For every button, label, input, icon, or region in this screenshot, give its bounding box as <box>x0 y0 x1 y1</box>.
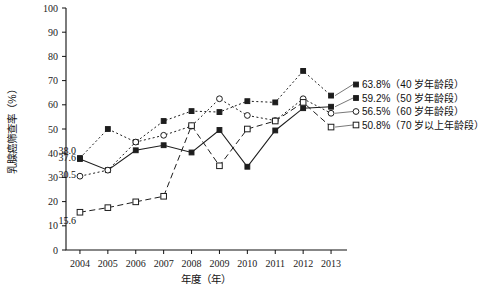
legend-label-3: 50.8%（70 岁以上年龄段） <box>362 119 484 131</box>
series-0-marker <box>301 69 306 74</box>
series-3-marker <box>133 199 139 205</box>
legend-marker-3 <box>353 122 359 128</box>
x-tick-label: 2010 <box>237 258 257 269</box>
series-1-marker <box>78 157 83 162</box>
x-axis-title: 年度（年） <box>181 273 231 285</box>
series-2-marker <box>244 113 250 119</box>
point-label-3: 15.6 <box>58 215 76 226</box>
legend-leader-1 <box>335 98 353 107</box>
y-tick-label: 60 <box>48 99 58 110</box>
series-1-marker <box>329 104 334 109</box>
y-tick-label: 20 <box>48 196 58 207</box>
chart-svg: 0102030405060708090100200420052006200720… <box>0 0 487 293</box>
series-1-marker <box>189 150 194 155</box>
legend-label-0: 63.8%（40 岁年龄段） <box>362 78 464 90</box>
series-3-marker <box>328 124 334 130</box>
x-tick-label: 2011 <box>265 258 285 269</box>
series-1-marker <box>273 128 278 133</box>
x-tick-label: 2008 <box>182 258 202 269</box>
series-3-marker <box>300 100 306 106</box>
legend-leader-2 <box>335 112 353 114</box>
y-tick-label: 10 <box>48 220 58 231</box>
series-2-marker <box>217 96 223 102</box>
legend-marker-0 <box>354 82 359 87</box>
y-tick-label: 30 <box>48 172 58 183</box>
series-2-marker <box>328 110 334 116</box>
series-2-marker <box>133 139 139 145</box>
y-tick-label: 70 <box>48 75 58 86</box>
point-label-2: 30.5 <box>58 169 76 180</box>
legend-marker-1 <box>354 96 359 101</box>
legend-leader-3 <box>335 125 353 127</box>
series-0-marker <box>329 93 334 98</box>
x-tick-label: 2006 <box>126 258 146 269</box>
series-0-marker <box>105 127 110 132</box>
legend-marker-2 <box>353 109 359 115</box>
series-3-marker <box>105 205 111 211</box>
series-0-marker <box>217 110 222 115</box>
series-3-marker <box>272 118 278 124</box>
series-0-marker <box>189 109 194 114</box>
y-tick-label: 100 <box>43 3 58 14</box>
y-tick-label: 40 <box>48 148 58 159</box>
x-tick-label: 2007 <box>154 258 174 269</box>
series-1-marker <box>133 148 138 153</box>
series-1-marker <box>161 143 166 148</box>
series-line-3 <box>80 102 331 212</box>
x-tick-label: 2012 <box>293 258 313 269</box>
point-label-1: 37.6 <box>58 152 76 163</box>
series-1-marker <box>217 128 222 133</box>
breast-cancer-screening-rate-chart: 0102030405060708090100200420052006200720… <box>0 0 487 293</box>
series-2-marker <box>161 132 167 138</box>
series-2-marker <box>105 167 111 173</box>
y-tick-label: 90 <box>48 27 58 38</box>
series-1-marker <box>245 164 250 169</box>
y-tick-label: 0 <box>53 245 58 256</box>
series-0-marker <box>273 100 278 105</box>
x-tick-label: 2013 <box>321 258 341 269</box>
x-tick-label: 2009 <box>209 258 229 269</box>
series-3-marker <box>245 126 251 132</box>
y-axis-title: 乳腺癌筛查率（%） <box>6 84 18 173</box>
series-3-marker <box>189 123 195 129</box>
x-tick-label: 2004 <box>70 258 90 269</box>
legend-label-1: 59.2%（50 岁年龄段） <box>362 92 464 104</box>
series-3-marker <box>77 209 83 215</box>
y-tick-label: 80 <box>48 51 58 62</box>
x-tick-label: 2005 <box>98 258 118 269</box>
legend-leader-0 <box>335 85 353 96</box>
legend-label-2: 56.5%（60 岁年龄段） <box>362 105 464 117</box>
series-2-marker <box>77 173 83 179</box>
series-line-2 <box>80 99 331 176</box>
y-tick-label: 50 <box>48 124 58 135</box>
series-0-marker <box>245 99 250 104</box>
series-1-marker <box>301 106 306 111</box>
series-0-marker <box>161 119 166 124</box>
series-3-marker <box>161 193 167 199</box>
series-3-marker <box>217 163 223 169</box>
